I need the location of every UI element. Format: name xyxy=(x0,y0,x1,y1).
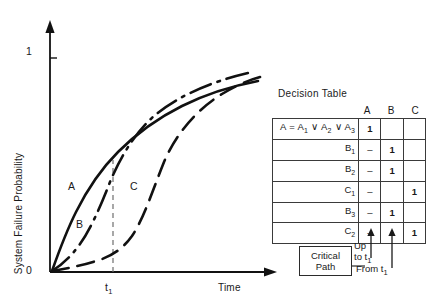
cell-a: – xyxy=(359,160,381,181)
decision-table-body: A = A1 ∨ A2 ∨ A3 1 B1 – 1 B2 – 1 C1 – xyxy=(273,119,426,244)
decision-table-title: Decision Table xyxy=(278,88,347,99)
decision-table-column-headers: A B C xyxy=(355,105,427,116)
table-row: C1 – 1 xyxy=(273,181,426,202)
critical-path-box: Critical Path xyxy=(299,246,352,276)
cell-c xyxy=(403,119,425,140)
y-axis-arrowhead xyxy=(45,20,54,33)
cell-a: – xyxy=(359,181,381,202)
chart-svg xyxy=(0,0,280,304)
cell-b: 1 xyxy=(381,202,403,223)
table-row: A = A1 ∨ A2 ∨ A3 1 xyxy=(273,119,426,140)
table-row: B1 – 1 xyxy=(273,139,426,160)
cell-b: 1 xyxy=(381,160,403,181)
y-tick-label-0: 0 xyxy=(26,264,32,276)
cell-a: – xyxy=(359,202,381,223)
decision-table: A = A1 ∨ A2 ∨ A3 1 B1 – 1 B2 – 1 C1 – xyxy=(272,118,426,244)
cell-b xyxy=(381,223,403,244)
y-axis-label: System Failure Probability xyxy=(13,144,24,284)
x-tick-label-t1: t1 xyxy=(105,281,113,296)
y-tick-label-1: 1 xyxy=(26,45,32,57)
cell-c xyxy=(403,160,425,181)
table-row: B3 – 1 xyxy=(273,202,426,223)
annotation-from-t1: From t1 xyxy=(356,263,388,277)
row-condition: A = A1 ∨ A2 ∨ A3 xyxy=(273,119,359,140)
line-chart: 1 0 t1 Time System Failure Probability A… xyxy=(0,0,280,304)
cell-b: 1 xyxy=(381,139,403,160)
curve-label-b: B xyxy=(76,218,83,230)
column-header-c: C xyxy=(403,105,427,116)
cell-c: 1 xyxy=(403,223,425,244)
critical-path-line1: Critical xyxy=(300,250,351,261)
cell-c xyxy=(403,139,425,160)
y-axis-label-wrap: System Failure Probability xyxy=(4,60,20,240)
table-row: C2 – 1 xyxy=(273,223,426,244)
x-axis-label: Time xyxy=(218,282,241,293)
row-condition: B3 xyxy=(273,202,359,223)
cell-a: 1 xyxy=(359,119,381,140)
row-condition: B1 xyxy=(273,139,359,160)
figure-canvas: 1 0 t1 Time System Failure Probability A… xyxy=(0,0,438,304)
cell-c: 1 xyxy=(403,181,425,202)
column-header-b: B xyxy=(379,105,403,116)
curve-label-c: C xyxy=(130,180,138,192)
x-axis-arrowhead xyxy=(264,267,277,276)
annotation-up: Up xyxy=(354,240,366,251)
curve-c-path xyxy=(52,76,264,271)
cell-b xyxy=(381,119,403,140)
cell-c xyxy=(403,202,425,223)
row-condition: B2 xyxy=(273,160,359,181)
critical-path-line2: Path xyxy=(300,261,351,272)
column-header-a: A xyxy=(355,105,379,116)
row-condition: C2 xyxy=(273,223,359,244)
curve-label-a: A xyxy=(68,180,75,192)
curve-a-path xyxy=(52,81,258,271)
curve-b-path xyxy=(52,73,248,271)
cell-b xyxy=(381,181,403,202)
table-row: B2 – 1 xyxy=(273,160,426,181)
cell-a: – xyxy=(359,139,381,160)
row-condition: C1 xyxy=(273,181,359,202)
